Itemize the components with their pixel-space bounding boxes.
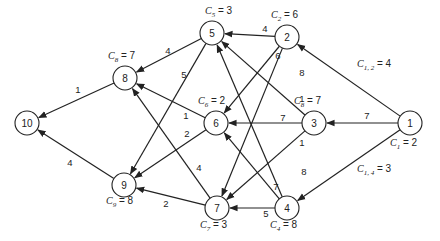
node-cost-6: C6 = 2	[198, 95, 226, 109]
edge-weight-4-5: 8	[301, 166, 306, 177]
node-6: 6	[204, 111, 228, 135]
node-label: 10	[21, 118, 33, 129]
node-9: 9	[112, 173, 136, 197]
edge-weight-3-7: 1	[299, 137, 304, 148]
edge-weight-7-8: 4	[196, 162, 201, 173]
node-label: 7	[214, 203, 220, 214]
edge-weight-2-7: 8	[299, 67, 304, 78]
edge-weight-7-9: 2	[163, 198, 168, 209]
node-label: 1	[407, 118, 413, 129]
edge-weight-1-4: C1, 4 = 3	[357, 163, 392, 177]
node-cost-5: C5 = 3	[205, 5, 233, 19]
node-7: 7	[205, 196, 229, 220]
edge-weight-1-3: 7	[364, 110, 369, 121]
edge-9-to-10	[38, 130, 114, 179]
nodes-layer: 12345678910	[15, 21, 422, 220]
node-label: 6	[213, 118, 219, 129]
labels-layer: C1, 2 = 47C1, 4 = 346817187545124214C1 =…	[67, 5, 417, 233]
node-cost-7: C7 = 3	[200, 219, 228, 233]
edge-2-to-7	[222, 48, 283, 196]
edge-3-to-7	[227, 131, 305, 200]
edge-2-to-5	[225, 34, 275, 37]
edge-weight-5-8: 4	[165, 45, 170, 56]
edge-weight-4-7: 5	[263, 208, 268, 219]
node-label: 5	[209, 28, 215, 39]
edge-weight-1-2: C1, 2 = 4	[357, 58, 392, 72]
node-10: 10	[15, 111, 39, 135]
node-cost-1: C1 = 2	[390, 137, 418, 151]
node-label: 2	[284, 32, 290, 43]
node-1: 1	[398, 111, 422, 135]
node-5: 5	[200, 21, 224, 45]
edge-weight-6-8: 1	[183, 110, 188, 121]
node-cost-9: C9 = 8	[106, 195, 134, 209]
network-diagram: 12345678910 C1, 2 = 47C1, 4 = 3468171875…	[0, 0, 440, 241]
edge-6-to-9	[135, 130, 206, 178]
node-4: 4	[275, 196, 299, 220]
node-label: 4	[284, 203, 290, 214]
edge-weight-5-9: 5	[181, 69, 186, 80]
edge-weight-9-10: 4	[67, 157, 72, 168]
node-cost-4: C4 = 8	[270, 219, 298, 233]
node-8: 8	[113, 66, 137, 90]
edge-4-to-6	[224, 133, 279, 199]
node-label: 3	[311, 118, 317, 129]
edge-6-to-8	[137, 84, 206, 118]
node-cost-3: C8 = 7	[294, 95, 322, 109]
node-label: 9	[121, 180, 127, 191]
node-2: 2	[275, 25, 299, 49]
edge-3-to-5	[222, 42, 305, 115]
edge-weight-2-6: 6	[275, 50, 280, 61]
node-cost-2: C2 = 6	[271, 9, 299, 23]
node-3: 3	[302, 111, 326, 135]
edge-7-to-9	[137, 188, 206, 205]
edge-5-to-9	[131, 43, 206, 173]
edge-weight-4-6: 7	[273, 181, 278, 192]
node-label: 8	[122, 73, 128, 84]
edge-weight-2-5: 4	[262, 23, 267, 34]
edge-weight-8-10: 1	[75, 84, 80, 95]
edge-weight-3-6: 7	[280, 112, 285, 123]
edge-weight-6-9: 2	[184, 128, 189, 139]
node-cost-8: C8 = 7	[108, 50, 136, 64]
